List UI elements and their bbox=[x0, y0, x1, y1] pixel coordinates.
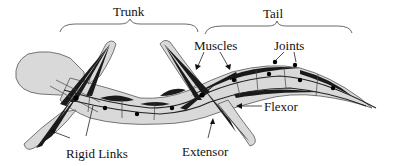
joints-label: Joints bbox=[274, 39, 304, 52]
flexor-label: Flexor bbox=[264, 100, 298, 113]
joints-arrows bbox=[276, 52, 296, 62]
muscles-arrows bbox=[195, 52, 231, 70]
extensor-label: Extensor bbox=[182, 145, 228, 158]
rigid-links-label: Rigid Links bbox=[66, 147, 128, 160]
trunk-body bbox=[60, 66, 372, 125]
tail-brace bbox=[205, 21, 352, 34]
muscles-label: Muscles bbox=[194, 39, 237, 52]
salamander-musculoskeletal-diagram bbox=[0, 0, 393, 166]
tail-label: Tail bbox=[263, 7, 283, 20]
trunk-label: Trunk bbox=[113, 5, 144, 18]
trunk-brace bbox=[60, 19, 198, 32]
extensor-arrow bbox=[208, 118, 215, 138]
